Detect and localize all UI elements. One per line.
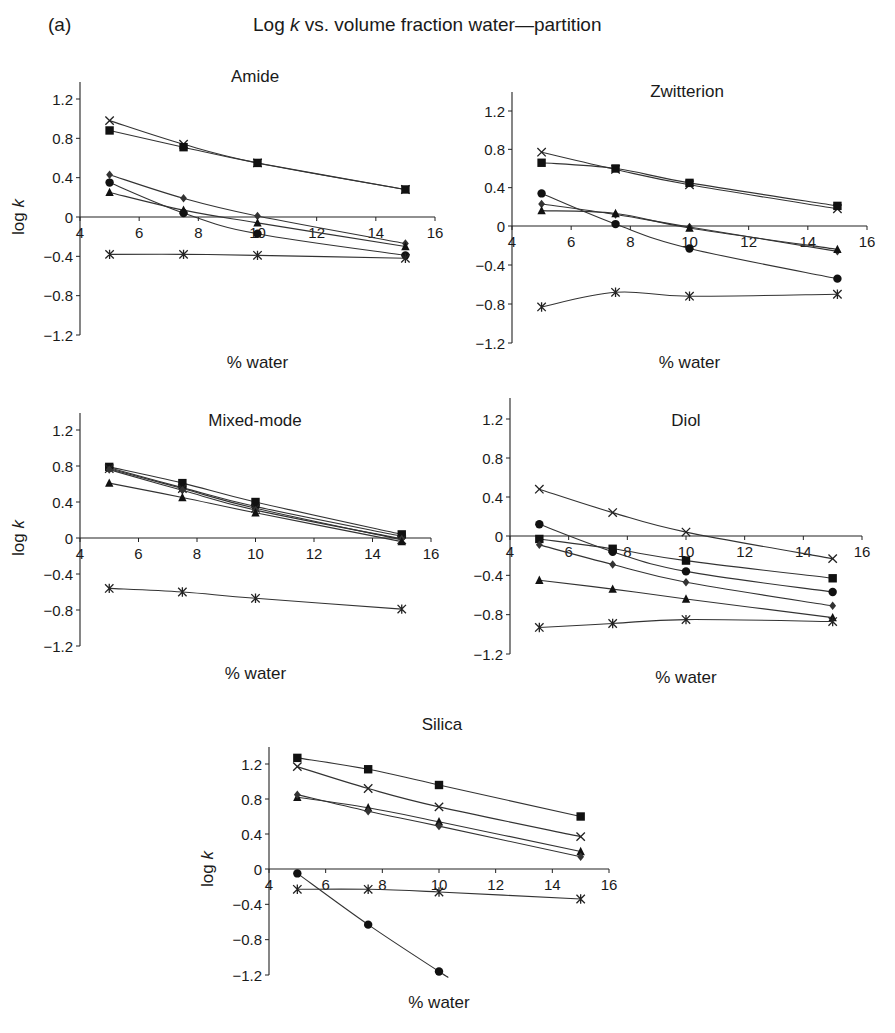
cross-marker-icon xyxy=(537,148,545,156)
x-tick-label: 10 xyxy=(247,545,264,562)
x-tick-label: 14 xyxy=(544,876,561,893)
y-tick-label: 0.4 xyxy=(52,494,73,511)
y-tick-label: −1.2 xyxy=(232,967,262,984)
y-tick-label: 0.4 xyxy=(52,169,73,186)
x-tick-label: 16 xyxy=(601,876,618,893)
x-tick-label: 12 xyxy=(306,545,323,562)
y-tick-label: −0.4 xyxy=(43,566,73,583)
y-tick-label: −0.8 xyxy=(43,602,73,619)
triangle-marker-icon xyxy=(105,478,113,486)
x-tick-label: 16 xyxy=(859,233,876,250)
x-tick-label: 4 xyxy=(508,233,516,250)
x-tick-label: 14 xyxy=(364,545,381,562)
x-tick-label: 6 xyxy=(134,545,142,562)
x-tick-label: 8 xyxy=(193,545,201,562)
y-tick-label: −0.4 xyxy=(43,248,73,265)
y-axis-label: log k xyxy=(198,850,217,887)
y-tick-label: 0.8 xyxy=(241,791,262,808)
x-tick-label: 4 xyxy=(506,543,514,560)
diamond-marker-icon xyxy=(180,194,187,202)
x-axis-label: % water xyxy=(659,353,721,372)
series-asterisk xyxy=(537,288,841,312)
diamond-marker-icon xyxy=(829,602,836,610)
y-tick-label: −0.8 xyxy=(473,606,503,623)
chart-title: Diol xyxy=(671,411,700,430)
x-tick-label: 4 xyxy=(265,876,273,893)
chart-title: Zwitterion xyxy=(650,82,724,101)
circle-marker-icon xyxy=(833,274,841,282)
square-marker-icon xyxy=(253,159,261,167)
x-tick-label: 8 xyxy=(626,233,634,250)
y-tick-label: 0 xyxy=(65,530,73,547)
y-axis-label: log k xyxy=(9,519,28,556)
x-tick-label: 8 xyxy=(194,224,202,241)
y-tick-label: −1.2 xyxy=(473,646,503,663)
square-marker-icon xyxy=(105,126,113,134)
x-tick-label: 14 xyxy=(795,543,812,560)
chart-title: Silica xyxy=(422,715,463,734)
circle-marker-icon xyxy=(535,520,543,528)
square-marker-icon xyxy=(537,159,545,167)
circle-marker-icon xyxy=(105,178,113,186)
y-tick-label: −1.2 xyxy=(475,335,505,352)
cross-marker-icon xyxy=(576,832,584,840)
x-tick-label: 8 xyxy=(378,876,386,893)
circle-marker-icon xyxy=(253,230,261,238)
x-tick-label: 16 xyxy=(427,224,444,241)
chart-title: Mixed-mode xyxy=(208,411,302,430)
x-tick-label: 12 xyxy=(487,876,504,893)
y-tick-label: 0.8 xyxy=(52,458,73,475)
chart-panel-silica: Silica1.20.80.40−0.4−0.8−1.246810121416%… xyxy=(198,715,617,1012)
triangle-marker-icon xyxy=(537,206,545,214)
series-triangle xyxy=(105,478,406,545)
circle-marker-icon xyxy=(682,567,690,575)
y-tick-label: 0 xyxy=(65,209,73,226)
chart-panel-diol: Diol1.20.80.40−0.4−0.8−1.246810121416% w… xyxy=(473,398,870,687)
y-tick-label: −0.4 xyxy=(232,896,262,913)
series-asterisk xyxy=(535,615,837,632)
y-tick-label: −0.4 xyxy=(475,257,505,274)
y-tick-label: −0.4 xyxy=(473,567,503,584)
square-marker-icon xyxy=(611,164,619,172)
y-tick-label: −0.8 xyxy=(232,931,262,948)
chart-panel-zwitterion: Zwitterion1.20.80.40−0.4−0.8−1.246810121… xyxy=(475,82,875,372)
series-circle xyxy=(293,869,448,977)
y-tick-label: 0.4 xyxy=(482,489,503,506)
x-tick-label: 6 xyxy=(135,224,143,241)
square-marker-icon xyxy=(401,185,409,193)
circle-marker-icon xyxy=(435,967,443,975)
diamond-marker-icon xyxy=(609,560,616,568)
circle-marker-icon xyxy=(364,920,372,928)
cross-marker-icon xyxy=(435,803,443,811)
square-marker-icon xyxy=(682,556,690,564)
y-tick-label: 1.2 xyxy=(52,422,73,439)
y-tick-label: 0.8 xyxy=(482,450,503,467)
y-tick-label: −1.2 xyxy=(43,327,73,344)
triangle-marker-icon xyxy=(535,576,543,584)
circle-marker-icon xyxy=(828,588,836,596)
cross-marker-icon xyxy=(105,116,113,124)
x-tick-label: 4 xyxy=(76,224,84,241)
circle-marker-icon xyxy=(685,244,693,252)
cross-marker-icon xyxy=(293,762,301,770)
y-tick-label: 0 xyxy=(254,861,262,878)
cross-marker-icon xyxy=(535,485,543,493)
series-square xyxy=(293,754,585,821)
y-tick-label: 0 xyxy=(497,218,505,235)
x-tick-label: 16 xyxy=(854,543,871,560)
chart-title: Amide xyxy=(231,67,279,86)
x-tick-label: 6 xyxy=(321,876,329,893)
x-axis-label: % water xyxy=(227,353,289,372)
diamond-marker-icon xyxy=(106,171,113,179)
y-tick-label: −0.8 xyxy=(475,296,505,313)
circle-marker-icon xyxy=(537,189,545,197)
x-axis-label: % water xyxy=(225,664,287,683)
y-tick-label: 0.4 xyxy=(241,826,262,843)
series-square xyxy=(105,463,406,539)
asterisk-marker-icon xyxy=(537,302,545,311)
circle-marker-icon xyxy=(608,548,616,556)
y-tick-label: 1.2 xyxy=(484,103,505,120)
series-square xyxy=(105,126,409,193)
square-marker-icon xyxy=(293,754,301,762)
square-marker-icon xyxy=(364,765,372,773)
